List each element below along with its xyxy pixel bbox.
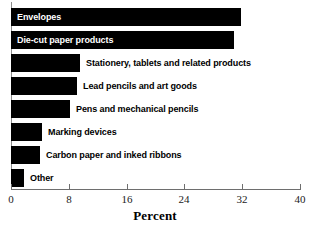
tick-label: 24 bbox=[179, 193, 190, 205]
bar-row: Carbon paper and inked ribbons bbox=[11, 146, 300, 164]
bar bbox=[11, 169, 24, 187]
tick-mark bbox=[300, 184, 301, 190]
bar-chart: EnvelopesDie-cut paper productsStationer… bbox=[0, 0, 310, 230]
tick-mark bbox=[242, 184, 243, 190]
bar-row: Other bbox=[11, 169, 300, 187]
tick-label: 16 bbox=[122, 193, 133, 205]
bar bbox=[11, 77, 77, 95]
bar-row: Pens and mechanical pencils bbox=[11, 100, 300, 118]
bar bbox=[11, 54, 80, 72]
bar-row: Lead pencils and art goods bbox=[11, 77, 300, 95]
tick-label: 0 bbox=[8, 193, 14, 205]
bar bbox=[11, 123, 42, 141]
tick-mark bbox=[69, 184, 70, 190]
tick-label: 40 bbox=[295, 193, 306, 205]
tick-label: 32 bbox=[237, 193, 248, 205]
bar-label: Carbon paper and inked ribbons bbox=[46, 150, 182, 160]
bar-label: Lead pencils and art goods bbox=[83, 81, 197, 91]
value-axis-line bbox=[11, 189, 300, 190]
bar-label: Die-cut paper products bbox=[17, 35, 113, 45]
bar bbox=[11, 146, 40, 164]
tick-mark bbox=[11, 184, 12, 190]
bar-row: Envelopes bbox=[11, 8, 300, 26]
bar-label: Stationery, tablets and related products bbox=[86, 58, 251, 68]
x-axis-title: Percent bbox=[0, 208, 310, 224]
bar-row: Die-cut paper products bbox=[11, 31, 300, 49]
bar-label: Envelopes bbox=[17, 12, 61, 22]
bar-label: Pens and mechanical pencils bbox=[76, 104, 198, 114]
tick-mark bbox=[127, 184, 128, 190]
bar-label: Marking devices bbox=[48, 127, 117, 137]
bar-row: Stationery, tablets and related products bbox=[11, 54, 300, 72]
bar-label: Other bbox=[30, 173, 54, 183]
bar-row: Marking devices bbox=[11, 123, 300, 141]
tick-mark bbox=[184, 184, 185, 190]
bar bbox=[11, 100, 70, 118]
tick-label: 8 bbox=[66, 193, 72, 205]
plot-area: EnvelopesDie-cut paper productsStationer… bbox=[0, 0, 310, 190]
